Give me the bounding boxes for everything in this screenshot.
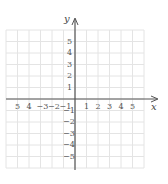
x-tick-label: 1 xyxy=(84,103,89,111)
x-tick-label: −2 xyxy=(48,103,60,111)
x-tick-label: 4 xyxy=(119,103,124,111)
x-axis-label: x xyxy=(151,102,157,112)
x-tick-label: 2 xyxy=(96,103,101,111)
y-tick-label: −3 xyxy=(63,130,75,138)
x-tick-label: 3 xyxy=(107,103,112,111)
y-tick-label: 3 xyxy=(67,61,72,69)
x-tick-label: −3 xyxy=(37,103,49,111)
y-tick-label: 1 xyxy=(67,84,72,92)
y-axis-label: y xyxy=(64,14,70,24)
y-tick-label: 5 xyxy=(67,38,72,46)
x-tick-label: 4 xyxy=(27,103,32,111)
y-tick-label: −1 xyxy=(63,107,75,115)
y-tick-label: −4 xyxy=(63,141,75,149)
x-tick-label: 5 xyxy=(15,103,20,111)
y-tick-label: −2 xyxy=(63,118,75,126)
y-tick-label: 4 xyxy=(67,49,72,57)
y-tick-label: −5 xyxy=(63,153,75,161)
x-tick-label: 5 xyxy=(130,103,135,111)
y-tick-label: 2 xyxy=(67,72,72,80)
coordinate-plane xyxy=(0,0,168,184)
